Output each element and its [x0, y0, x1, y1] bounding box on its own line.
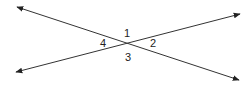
- line-b: [16, 14, 240, 72]
- angle-label-3: 3: [125, 52, 131, 63]
- angle-label-1: 1: [124, 28, 130, 39]
- angle-label-4: 4: [100, 38, 106, 49]
- intersecting-lines-diagram: 1 2 3 4: [0, 0, 252, 88]
- angle-label-2: 2: [150, 38, 156, 49]
- lines-svg: [0, 0, 252, 88]
